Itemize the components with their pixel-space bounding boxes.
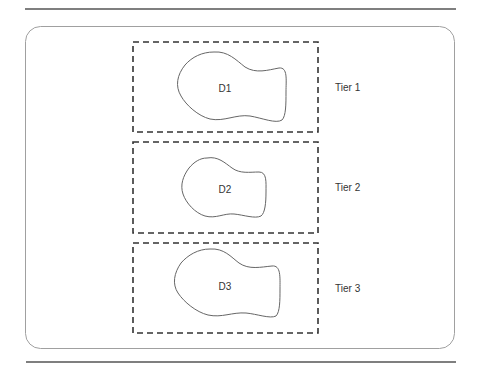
tier-2-label: Tier 2 — [335, 182, 361, 193]
region-d1-shape — [178, 52, 287, 121]
tier-3-group: D3 Tier 3 — [133, 243, 361, 333]
tier-1-label: Tier 1 — [335, 82, 361, 93]
region-d2-label: D2 — [219, 184, 232, 195]
tier-1-group: D1 Tier 1 — [133, 42, 361, 132]
tier-3-label: Tier 3 — [335, 283, 361, 294]
tier-diagram: D1 Tier 1 D2 Tier 2 D3 Tier 3 — [0, 0, 480, 366]
outer-container — [26, 27, 455, 349]
region-d1-label: D1 — [219, 83, 232, 94]
tier-2-group: D2 Tier 2 — [133, 142, 361, 233]
region-d3-label: D3 — [219, 281, 232, 292]
